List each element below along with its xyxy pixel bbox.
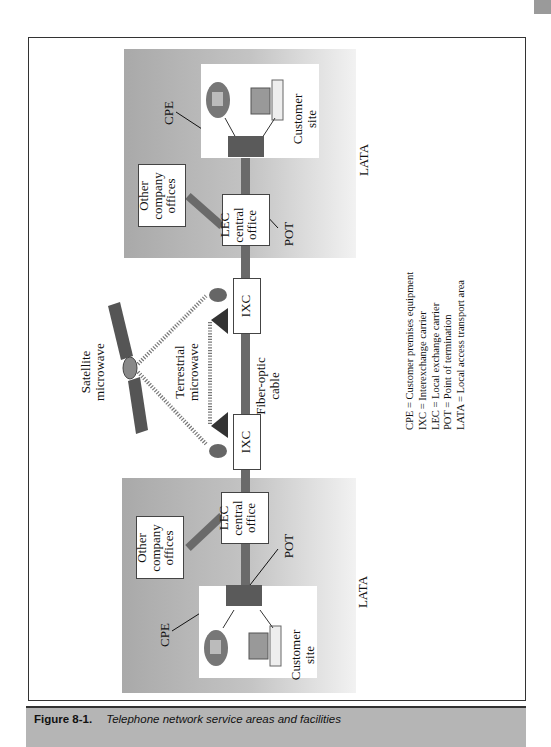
lec-label-top: LECcentraloffice (218, 199, 262, 251)
figure-caption: Figure 8-1.Telephone network service are… (34, 713, 341, 725)
pc-wire-bottom (260, 610, 273, 628)
computer-icon-bottom (249, 626, 281, 666)
other-offices-label-bottom: Othercompanyoffices (135, 517, 179, 579)
phone-wire-bottom (223, 610, 234, 628)
figure-number: Figure 8-1. (34, 713, 92, 725)
terrestrial-label: Terrestrialmicrowave (173, 334, 205, 410)
pc-wire-top (262, 118, 275, 138)
ixc-label-bottom: IXC (239, 424, 255, 460)
lata-label-bottom: LATA (356, 572, 372, 612)
other-offices-label-top: Othercompanyoffices (137, 165, 181, 227)
phone-icon-bottom (204, 630, 228, 666)
phone-wire-top (225, 118, 236, 138)
cpe-label-bottom: CPE (158, 615, 174, 655)
customer-site-label-top: Customersite (291, 84, 325, 154)
ixc-label-top: IXC (239, 288, 255, 324)
lata-label-top: LATA (357, 140, 373, 180)
figure-caption-bar: Figure 8-1.Telephone network service are… (26, 706, 526, 747)
cpe-label-top: CPE (162, 93, 178, 133)
cpe-box-top (228, 136, 264, 157)
legend: CPE = Customer premises equipment IXC = … (404, 260, 474, 430)
computer-icon-top (251, 80, 283, 120)
phone-icon-top (206, 82, 230, 118)
pot-label-bottom: POT (282, 526, 298, 566)
figure-title: Telephone network service areas and faci… (106, 713, 341, 725)
customer-site-label-bottom: Customersite (289, 620, 323, 690)
lec-label-bottom: LECcentraloffice (217, 492, 261, 544)
cpe-box-bottom (226, 585, 262, 606)
pot-label-top: POT (282, 214, 298, 254)
satellite-label: Satellitemicrowave (79, 336, 111, 408)
fiber-label: Fiber-opticcable (254, 348, 286, 424)
